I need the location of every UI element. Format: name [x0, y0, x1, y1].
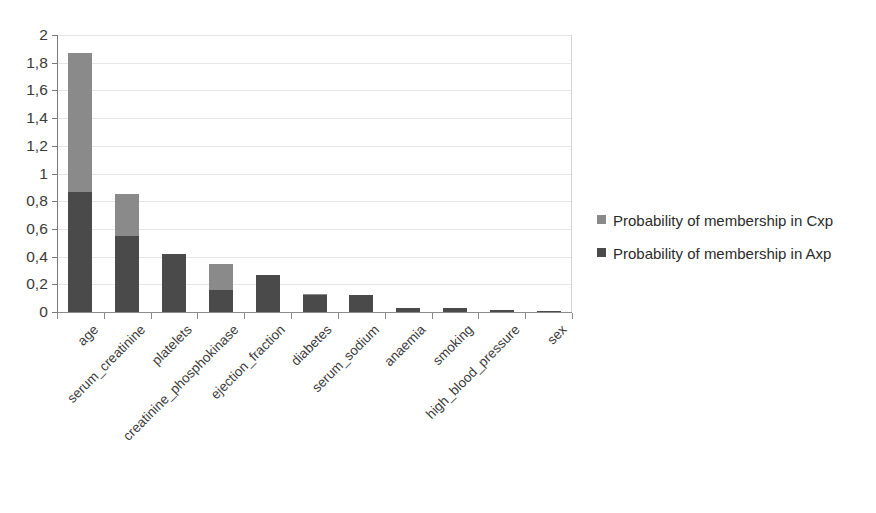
- y-axis-label: 1: [39, 165, 48, 183]
- chart-legend: Probability of membership in CxpProbabil…: [597, 211, 869, 277]
- x-axis-tick: [104, 313, 105, 319]
- bar-segment-cxp[interactable]: [115, 194, 139, 236]
- bar-chart: 00,20,40,60,811,21,41,61,82 ageserum_cre…: [0, 0, 876, 513]
- x-axis-line: [57, 312, 572, 313]
- bar-segment-cxp[interactable]: [209, 264, 233, 290]
- bar-diabetes[interactable]: [303, 294, 327, 312]
- legend-item[interactable]: Probability of membership in Cxp: [597, 211, 869, 230]
- legend-swatch-axp: [597, 248, 606, 257]
- x-axis-label-diabetes: diabetes: [288, 322, 335, 369]
- legend-label: Probability of membership in Axp: [613, 244, 831, 263]
- legend-label: Probability of membership in Cxp: [613, 211, 833, 230]
- y-axis-label: 2: [39, 26, 48, 44]
- bar-creatinine_phosphokinase[interactable]: [209, 264, 233, 312]
- legend-swatch-cxp: [597, 215, 606, 224]
- bar-series-layer: [57, 35, 572, 312]
- bar-serum_creatinine[interactable]: [115, 194, 139, 312]
- y-axis-label: 1,2: [26, 137, 48, 155]
- x-axis-tick: [338, 313, 339, 319]
- x-axis-tick: [572, 313, 573, 319]
- bar-segment-cxp[interactable]: [303, 294, 327, 295]
- bar-segment-axp[interactable]: [256, 275, 280, 312]
- bar-segment-cxp[interactable]: [68, 53, 92, 192]
- y-axis-label: 0: [39, 303, 48, 321]
- bar-platelets[interactable]: [162, 254, 186, 312]
- x-axis-label-high_blood_pressure: high_blood_pressure: [423, 322, 523, 422]
- bar-age[interactable]: [68, 53, 92, 312]
- y-axis-label: 1,4: [26, 109, 48, 127]
- x-axis-label-age: age: [74, 322, 101, 349]
- y-axis-label: 0,2: [26, 275, 48, 293]
- x-axis-label-sex: sex: [544, 322, 569, 347]
- x-axis-tick: [244, 313, 245, 319]
- bar-ejection_fraction[interactable]: [256, 275, 280, 312]
- y-axis-label: 1,8: [26, 54, 48, 72]
- x-axis-tick: [291, 313, 292, 319]
- bar-segment-axp[interactable]: [349, 295, 373, 312]
- x-axis-tick: [151, 313, 152, 319]
- x-axis-label-smoking: smoking: [429, 322, 475, 368]
- y-axis-label: 1,6: [26, 81, 48, 99]
- y-axis-label: 0,8: [26, 192, 48, 210]
- legend-item[interactable]: Probability of membership in Axp: [597, 244, 869, 263]
- y-axis-label: 0,6: [26, 220, 48, 238]
- x-axis-tick: [197, 313, 198, 319]
- x-axis-tick: [478, 313, 479, 319]
- bar-segment-axp[interactable]: [68, 192, 92, 312]
- x-axis-label-platelets: platelets: [148, 322, 194, 368]
- bar-serum_sodium[interactable]: [349, 295, 373, 312]
- y-axis-label: 0,4: [26, 248, 48, 266]
- x-axis-label-anaemia: anaemia: [381, 322, 428, 369]
- x-axis-tick: [432, 313, 433, 319]
- x-axis-tick: [385, 313, 386, 319]
- bar-segment-axp[interactable]: [115, 236, 139, 312]
- bar-segment-axp[interactable]: [209, 290, 233, 312]
- x-axis-tick: [525, 313, 526, 319]
- bar-segment-axp[interactable]: [162, 254, 186, 312]
- x-axis-tick: [57, 313, 58, 319]
- bar-segment-axp[interactable]: [303, 295, 327, 312]
